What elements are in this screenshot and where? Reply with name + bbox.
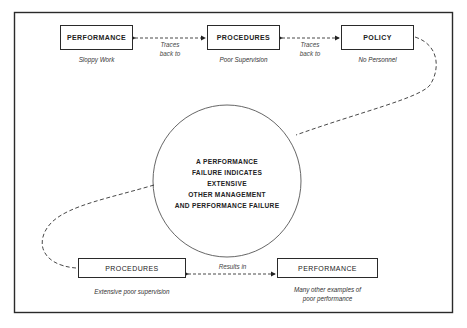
box-procedures-top: PROCEDURES	[207, 25, 280, 50]
box-label: PERFORMANCE	[67, 34, 126, 41]
box-label: PROCEDURES	[105, 265, 158, 272]
connector-label-line: Traces	[150, 40, 190, 49]
center-line: OTHER MANAGEMENT	[160, 189, 294, 200]
caption-many-other-examples: Many other examples of poor performance	[270, 285, 385, 303]
box-label: PERFORMANCE	[298, 265, 357, 272]
connector-label-line: back to	[150, 49, 190, 58]
caption-line: Many other examples of	[270, 285, 385, 294]
box-label: PROCEDURES	[217, 34, 270, 41]
caption-sloppy-work: Sloppy Work	[60, 55, 133, 64]
box-policy-top: POLICY	[341, 25, 414, 50]
connector-circle-procedures	[42, 185, 154, 268]
connector-label-line: Traces	[290, 40, 330, 49]
center-line: AND PERFORMANCE FAILURE	[160, 200, 294, 211]
connector-label-line: back to	[290, 49, 330, 58]
connector-label-results-in: Results in	[205, 262, 260, 271]
caption-poor-supervision: Poor Supervision	[200, 55, 287, 64]
connector-label-traces-1: Traces back to	[150, 40, 190, 58]
caption-extensive-poor-supervision: Extensive poor supervision	[70, 287, 194, 296]
center-line: EXTENSIVE	[160, 178, 294, 189]
center-statement: A PERFORMANCE FAILURE INDICATES EXTENSIV…	[160, 156, 294, 211]
center-line: A PERFORMANCE	[160, 156, 294, 167]
box-procedures-bottom: PROCEDURES	[78, 258, 186, 278]
caption-line: poor performance	[270, 294, 385, 303]
connector-label-traces-2: Traces back to	[290, 40, 330, 58]
box-performance-top: PERFORMANCE	[60, 25, 133, 50]
center-line: FAILURE INDICATES	[160, 167, 294, 178]
box-performance-bottom: PERFORMANCE	[277, 258, 378, 278]
box-label: POLICY	[363, 34, 391, 41]
caption-no-personnel: No Personnel	[341, 55, 414, 64]
